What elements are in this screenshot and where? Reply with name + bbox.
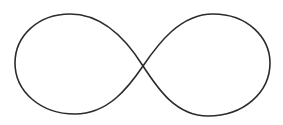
- infinity-symbol-canvas: Infinity symbol: [0, 0, 283, 125]
- infinity-icon: [0, 0, 283, 125]
- infinity-outline: [15, 14, 270, 116]
